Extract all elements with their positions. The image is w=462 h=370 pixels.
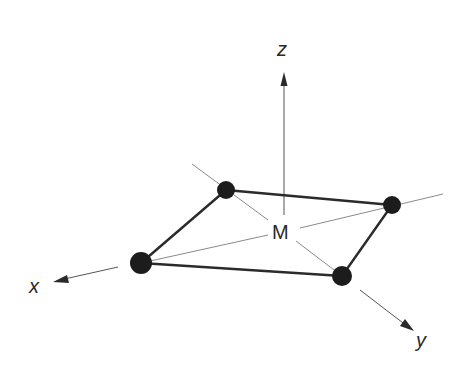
bond-back-left-back-right bbox=[226, 190, 392, 205]
diagonal-guide-line-2a bbox=[141, 235, 268, 263]
z-axis-arrowhead bbox=[281, 72, 288, 86]
x-axis-label: x bbox=[28, 275, 40, 297]
bond-front-left-back-left bbox=[141, 190, 226, 263]
square-planar-diagram: z x y M bbox=[0, 0, 462, 370]
atom-back-left bbox=[217, 181, 235, 199]
metal-center-label: M bbox=[272, 221, 289, 243]
y-axis-label: y bbox=[414, 329, 427, 351]
bond-back-right-front-right bbox=[342, 205, 392, 276]
atom-front-left bbox=[130, 252, 152, 274]
y-axis-arrowhead bbox=[400, 319, 414, 331]
bond-front-right-front-left bbox=[141, 263, 342, 276]
y-axis-line bbox=[360, 290, 407, 326]
x-axis-line bbox=[60, 267, 118, 280]
atom-front-right bbox=[332, 266, 352, 286]
atom-back-right bbox=[383, 196, 401, 214]
z-axis-label: z bbox=[276, 38, 287, 60]
x-axis-arrowhead bbox=[53, 275, 69, 283]
